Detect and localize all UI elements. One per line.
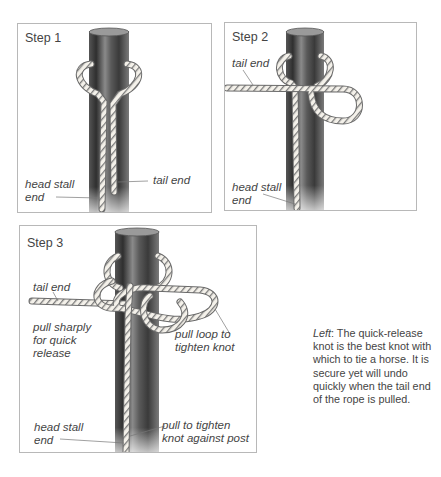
tail-end-leader-line bbox=[243, 70, 253, 85]
step-title: Step 2 bbox=[232, 30, 268, 44]
pull-to-tighten-label: pull to tighten knot against post bbox=[162, 419, 249, 445]
step-title: Step 1 bbox=[25, 31, 61, 45]
head-stall-end-label: head stall end bbox=[34, 421, 83, 447]
wooden-post-icon bbox=[115, 228, 159, 453]
tail-end-label: tail end bbox=[232, 57, 269, 70]
pull-sharply-label: pull sharply for quick release bbox=[33, 321, 91, 360]
tail-end-label: tail end bbox=[153, 174, 190, 187]
caption-text: : The quick-release knot is the best kno… bbox=[313, 327, 431, 405]
tail-end-label: tail end bbox=[33, 281, 70, 294]
step-2-panel: Step 2 tail end head stall end bbox=[224, 22, 417, 211]
step-3-panel: Step 3 tail end pull sharply for quick r… bbox=[19, 225, 257, 453]
step-title: Step 3 bbox=[27, 236, 63, 250]
wooden-post-icon bbox=[89, 28, 129, 213]
head-stall-end-label: head stall end bbox=[232, 181, 281, 207]
head-stall-end-label: head stall end bbox=[25, 178, 74, 204]
caption-lead: Left bbox=[313, 327, 331, 339]
pull-loop-label: pull loop to tighten knot bbox=[175, 328, 234, 354]
figure-caption: Left: The quick-release knot is the best… bbox=[313, 327, 433, 406]
step-1-panel: Step 1 tail end head stall end bbox=[17, 23, 212, 213]
